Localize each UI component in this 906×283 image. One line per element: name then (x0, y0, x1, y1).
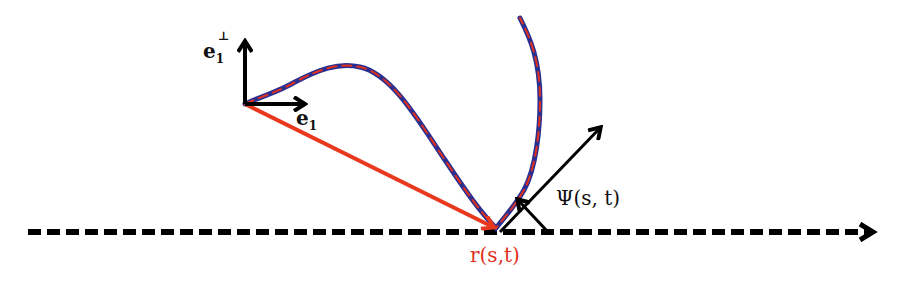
label-e1: e1 (296, 108, 317, 132)
label-psi: Ψ(s, t) (556, 188, 620, 208)
tangent-arrow (500, 128, 600, 232)
label-r: r(s,t) (470, 245, 520, 265)
position-vector-r (245, 104, 493, 227)
rod-curve (245, 18, 540, 228)
label-e1-perp: e1⊥ (203, 40, 230, 65)
psi-angle-arrow (518, 200, 548, 232)
rod-kinematics-diagram (0, 0, 906, 283)
